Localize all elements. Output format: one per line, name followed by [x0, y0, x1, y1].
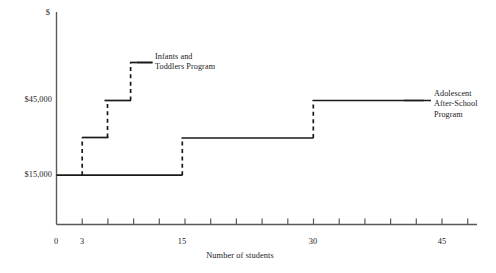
x-axis-ticks	[82, 219, 468, 225]
annotation-adolescent-line1: Adolescent	[434, 89, 478, 99]
x-axis-label-30: 30	[303, 237, 323, 247]
x-axis-label-15: 15	[172, 237, 192, 247]
annotation-adolescent-line3: Program	[434, 110, 478, 120]
annotation-infants-toddlers: Infants and Toddlers Program	[155, 52, 215, 73]
y-axis-label-45000: $45,000	[0, 95, 52, 105]
annotation-infants-line2: Toddlers Program	[155, 62, 215, 72]
x-axis-label-45: 45	[432, 237, 452, 247]
y-axis-symbol: $	[36, 8, 50, 18]
step-chart: $ $45,000 $15,000 0 3 15 30 45 Number of…	[0, 0, 496, 273]
annotation-adolescent-afterschool: Adolescent After-School Program	[434, 89, 478, 120]
series-adolescent-afterschool	[57, 101, 425, 176]
x-axis-title: Number of students	[155, 251, 325, 261]
chart-canvas	[0, 0, 496, 273]
annotation-infants-line1: Infants and	[155, 52, 215, 62]
series-infants-toddlers	[82, 63, 152, 176]
annotation-adolescent-line2: After-School	[434, 99, 478, 109]
y-axis-label-15000: $15,000	[0, 170, 52, 180]
x-axis-label-3: 3	[72, 237, 92, 247]
x-axis-label-0: 0	[46, 237, 66, 247]
